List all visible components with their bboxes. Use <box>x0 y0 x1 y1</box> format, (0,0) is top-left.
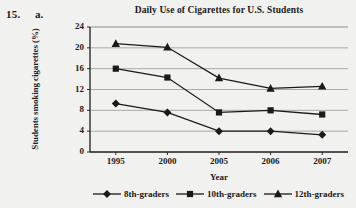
data-point-marker <box>112 39 120 47</box>
y-tick-label: 20 <box>62 42 84 52</box>
legend-marker-square <box>175 188 205 200</box>
legend-label: 12th-graders <box>295 189 345 199</box>
legend-item-12th-graders: 12th-graders <box>263 188 345 200</box>
data-point-marker <box>268 107 274 113</box>
data-point-marker <box>215 74 223 82</box>
data-point-marker <box>267 127 275 135</box>
x-tick-label: 2005 <box>199 156 239 166</box>
legend-marker-diamond <box>92 188 122 200</box>
data-point-marker <box>113 66 119 72</box>
legend-label: 10th-graders <box>207 189 257 199</box>
figure-container: 15. a. Daily Use of Cigarettes for U.S. … <box>0 0 356 208</box>
data-series-layer <box>112 39 327 139</box>
data-point-marker <box>215 127 223 135</box>
data-point-marker <box>318 82 326 90</box>
data-point-marker <box>164 74 170 80</box>
x-tick-label: 2000 <box>147 156 187 166</box>
data-point-marker <box>112 100 120 108</box>
data-point-marker <box>216 109 222 115</box>
data-point-marker <box>319 111 325 117</box>
y-tick-label: 0 <box>62 146 84 156</box>
y-tick-label: 12 <box>62 84 84 94</box>
x-tick-label: 2006 <box>251 156 291 166</box>
y-tick-label: 4 <box>62 125 84 135</box>
legend-item-10th-graders: 10th-graders <box>175 188 257 200</box>
axis-lines <box>87 27 348 155</box>
legend-label: 8th-graders <box>124 189 169 199</box>
x-tick-label: 1995 <box>96 156 136 166</box>
data-point-marker <box>163 108 171 116</box>
x-tick-label: 2007 <box>302 156 342 166</box>
y-tick-label: 16 <box>62 63 84 73</box>
legend-item-8th-graders: 8th-graders <box>92 188 169 200</box>
data-point-marker <box>187 191 193 197</box>
chart-legend: 8th-graders10th-graders12th-graders <box>80 188 356 200</box>
data-point-marker <box>318 131 326 139</box>
legend-marker-triangle <box>263 188 293 200</box>
y-tick-label: 24 <box>62 21 84 31</box>
x-axis-label: Year <box>88 172 350 182</box>
series-line <box>116 44 322 89</box>
data-point-marker <box>103 190 111 198</box>
series-12th-graders <box>112 39 327 92</box>
series-10th-graders <box>113 66 326 118</box>
y-tick-label: 8 <box>62 104 84 114</box>
series-8th-graders <box>112 100 326 139</box>
